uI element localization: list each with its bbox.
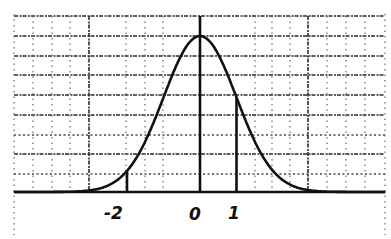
x-tick-labels: -2 0 1 — [104, 203, 240, 224]
bell-curve-chart: -2 0 1 — [0, 0, 391, 239]
tick-label-zero: 0 — [189, 204, 201, 224]
vertical-markers — [127, 16, 237, 192]
tick-label-one: 1 — [228, 203, 240, 223]
tick-label-minus-two: -2 — [104, 203, 123, 223]
